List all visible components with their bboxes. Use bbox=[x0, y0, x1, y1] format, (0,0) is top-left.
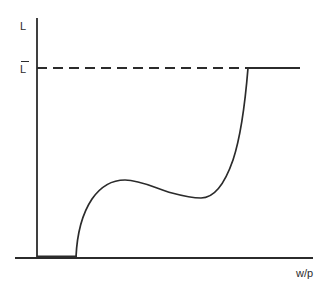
lbar-letter: L bbox=[20, 64, 29, 75]
y-axis-label: L bbox=[20, 21, 26, 32]
chart-figure: L L w/p bbox=[0, 0, 330, 289]
y-axis-lbar-label: L bbox=[20, 61, 29, 75]
x-axis-label: w/p bbox=[296, 268, 313, 279]
plot-canvas bbox=[0, 0, 330, 289]
labor-supply-curve bbox=[76, 68, 248, 257]
overbar-glyph bbox=[21, 61, 29, 62]
